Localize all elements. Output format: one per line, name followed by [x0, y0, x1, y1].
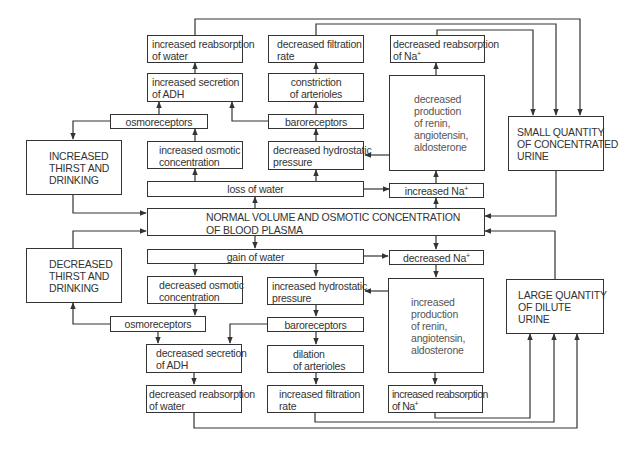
box-increased-renin-production: increased production of renin, angiotens…	[388, 278, 484, 373]
box-increased-osmotic-concentration: increased osmotic concentration	[147, 141, 243, 169]
arrow-large-urine-to-normal	[485, 231, 555, 279]
box-decreased-hydrostatic-pressure: decreased hydrostatic pressure	[268, 141, 364, 170]
box-decreased-na: decreased Na+	[389, 250, 484, 265]
box-decreased-secretion-adh: decreased secretion of ADH	[146, 344, 242, 373]
box-baroreceptors-upper: baroreceptors	[268, 114, 364, 129]
box-gain-of-water: gain of water	[147, 249, 364, 264]
box-decreased-filtration-rate: decreased filtration rate	[268, 35, 364, 63]
arrow-baro-to-adh	[232, 102, 268, 121]
box-decreased-thirst: DECREASED THIRST AND DRINKING	[26, 248, 122, 303]
box-loss-of-water: loss of water	[147, 181, 364, 197]
arrow-osmoreceptors-to-thirst	[73, 121, 110, 139]
box-increased-hydrostatic-pressure: increased hydrostatic pressure	[267, 277, 364, 305]
arrow-osmoreceptors-to-dec-thirst	[73, 303, 110, 324]
box-decreased-reabsorption-water: decreased reabsorption of water	[146, 385, 242, 413]
box-decreased-renin-production: decreased production of renin, angiotens…	[389, 75, 485, 171]
box-decreased-reabsorption-na: decreased reabsorption of Na+	[390, 35, 485, 63]
box-increased-filtration-rate: increased filtration rate	[267, 385, 364, 413]
box-increased-reabsorption-na: increased reabsorption of Na+	[388, 385, 483, 413]
box-osmoreceptors-upper: osmoreceptors	[110, 114, 208, 129]
arrow-baro-to-dec-adh	[230, 324, 267, 343]
box-baroreceptors-lower: baroreceptors	[267, 317, 364, 332]
box-decreased-osmotic-concentration: decreased osmotic concentration	[147, 276, 243, 304]
arrow-dec-thirst-to-normal	[73, 231, 146, 248]
arrow-small-urine-to-normal	[485, 171, 556, 216]
box-constriction-arterioles: constriction of arterioles	[268, 73, 364, 102]
box-increased-na: increased Na+	[389, 183, 484, 198]
box-normal-blood-plasma: NORMAL VOLUME AND OSMOTIC CONCENTRATION …	[147, 208, 485, 236]
box-increased-reabsorption-water: increased reabsorption of water	[147, 35, 243, 63]
arrow-thirst-to-normal	[73, 195, 146, 213]
box-large-quantity-urine: LARGE QUANTITY OF DILUTE URINE	[506, 279, 604, 334]
box-increased-thirst: INCREASED THIRST AND DRINKING	[26, 140, 122, 195]
box-small-quantity-urine: SMALL QUANTITY OF CONCENTRATED URINE	[508, 116, 604, 171]
arrow-water-to-large-urine	[194, 334, 577, 428]
box-increased-secretion-adh: increased secretion of ADH	[147, 73, 243, 102]
box-osmoreceptors-lower: osmoreceptors	[110, 316, 206, 332]
box-dilation-arterioles: dilation of arterioles	[267, 345, 364, 373]
arrow-water-to-small-urine	[195, 19, 580, 115]
